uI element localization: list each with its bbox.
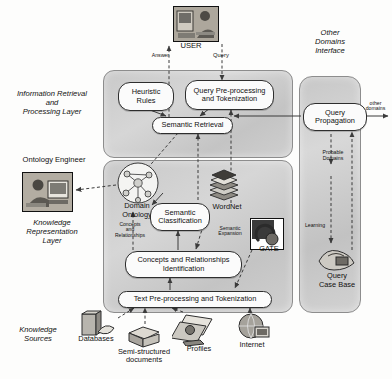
node-semantic-classification[interactable]: Semantic Classification [150,203,210,231]
wordnet-label: WordNet [203,203,251,212]
other-domains-line2: domains [360,106,391,111]
book-stack-icon [205,165,243,203]
concepts-rel-line3: Relationships [110,233,150,238]
user-at-computer-photo [173,6,219,42]
architecture-diagram: USER Answer Query Information Retrieval … [0,0,392,379]
heuristic-rules-line2: Rules [132,97,161,105]
layer-kr-line2: Representation [6,227,98,236]
engineer-at-computer-photo [22,172,73,212]
case-base-photo [316,245,356,271]
edge-label-query: Query [213,52,241,59]
semantic-retrieval-label: Semantic Retrieval [158,121,226,129]
profiles-label: Profiles [176,345,222,354]
query-preprocessing-line2: and Tokenization [194,95,266,103]
node-semantic-retrieval[interactable]: Semantic Retrieval [152,117,233,134]
layer-ir-line2: and [4,98,100,107]
query-case-base-line2: Case Base [310,281,364,290]
edge-label-answer: Answer [139,52,169,58]
databases-label: Databases [69,335,123,344]
node-heuristic-rules[interactable]: Heuristic Rules [118,82,174,111]
knowledge-sources-group-label: Knowledge Sources [2,325,74,343]
query-case-base-label: Query Case Base [310,272,364,290]
knowledge-sources-line1: Knowledge [2,325,74,334]
ontology-graph-icon [117,162,159,204]
layer-ir-line3: Processing Layer [4,107,100,116]
documents-icon [127,325,161,349]
other-domains-interface-label: Other Domains Interface [300,28,360,55]
layer-label-information-retrieval: Information Retrieval and Processing Lay… [4,89,100,116]
gate-label: GATE [252,245,286,254]
knowledge-sources-line2: Sources [2,334,74,343]
node-concepts-relationships-identification[interactable]: Concepts and Relationships Identificatio… [125,251,242,278]
layer-label-knowledge-representation: Knowledge Representation Layer [6,218,98,245]
semantic-classification-line2: Classification [158,217,202,225]
user-label: USER [168,41,214,50]
internet-label: Internet [228,341,276,350]
edge-label-other-domains: other domains [360,101,391,112]
internet-globe-icon [235,312,273,342]
layer-ir-line1: Information Retrieval [4,89,100,98]
profiles-icon [172,312,216,346]
edge-label-semantic-expansion: Semantic Expansion [210,226,250,237]
text-preprocessing-label: Text Pre-processing and Tokenization [131,295,260,303]
semi-structured-line2: documents [113,356,175,364]
edge-label-learning: Learning [299,222,331,228]
ontology-engineer-label: Ontology Engineer [18,155,90,164]
node-query-preprocessing[interactable]: Query Pre-processing and Tokenization [185,80,274,110]
probable-domains-line2: Domains [314,156,352,162]
concepts-identification-line2: Identification [137,265,229,273]
semi-structured-documents-label: Semi-structured documents [113,348,175,365]
node-query-propagation[interactable]: Query Propagation [303,103,367,131]
odi-line2: Domains [300,37,360,46]
edge-label-probable-domains: Probable Domains [314,150,352,161]
odi-line3: Interface [300,46,360,55]
layer-kr-line3: Layer [6,236,98,245]
semantic-expansion-line2: Expansion [210,231,250,236]
layer-kr-line1: Knowledge [6,218,98,227]
ontology-engineer-text: Ontology Engineer [18,155,90,164]
edge-label-concepts-relationships: Concepts and Relationships [110,222,150,238]
node-text-preprocessing[interactable]: Text Pre-processing and Tokenization [118,291,272,308]
query-propagation-line2: Propagation [315,117,355,125]
odi-line1: Other [300,28,360,37]
